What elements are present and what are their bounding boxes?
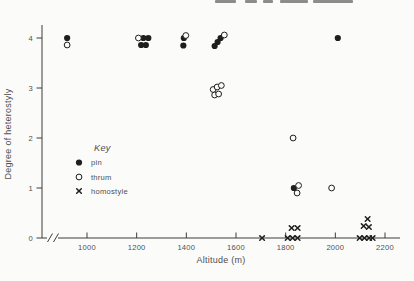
heterostyly-altitude-scatter-chart: 100012001400160018002000220001234Keypint… (0, 0, 414, 281)
series-thrum (64, 32, 334, 196)
x-tick-label: 1800 (277, 243, 295, 252)
y-tick-label: 2 (29, 134, 33, 143)
x-axis-label: Altitude (m) (196, 255, 245, 265)
legend-label-homostyle: homostyle (91, 187, 128, 196)
point-thrum (218, 83, 224, 89)
series-pin (64, 35, 341, 191)
point-thrum (64, 42, 70, 48)
point-pin (180, 42, 186, 48)
legend-marker-thrum (76, 174, 82, 180)
legend-marker-pin (76, 159, 82, 165)
point-thrum (329, 185, 335, 191)
point-pin (335, 35, 341, 41)
x-tick-label: 1400 (177, 243, 195, 252)
x-tick-label: 1600 (227, 243, 245, 252)
y-tick-label: 0 (29, 234, 33, 243)
point-pin (212, 43, 218, 49)
y-tick-label: 1 (29, 184, 33, 193)
point-thrum (183, 33, 189, 39)
y-tick-label: 3 (29, 84, 33, 93)
x-tick-label: 2000 (326, 243, 344, 252)
x-tick-label: 2200 (376, 243, 394, 252)
legend-title: Key (94, 143, 112, 153)
point-thrum (294, 190, 300, 196)
point-homostyle (367, 225, 372, 230)
y-axis-label: Degree of heterostyly (3, 88, 13, 179)
point-pin (143, 42, 149, 48)
point-homostyle (295, 226, 300, 231)
legend: Keypinthrumhomostyle (76, 143, 128, 196)
point-homostyle (289, 226, 294, 231)
x-axis-break-icon (48, 234, 59, 243)
x-tick-label: 1200 (128, 243, 146, 252)
point-thrum (216, 91, 222, 97)
point-thrum (221, 32, 227, 38)
point-thrum (296, 183, 302, 189)
point-homostyle (361, 224, 366, 229)
series-homostyle (260, 217, 375, 241)
point-thrum (136, 35, 142, 41)
point-homostyle (365, 217, 370, 222)
x-tick-label: 1000 (78, 243, 96, 252)
y-tick-label: 4 (29, 34, 33, 43)
legend-label-pin: pin (91, 158, 102, 167)
legend-label-thrum: thrum (91, 173, 112, 182)
point-pin (145, 35, 151, 41)
point-thrum (290, 135, 296, 141)
point-pin (64, 35, 70, 41)
scanned-figure-page: 100012001400160018002000220001234Keypint… (0, 0, 414, 281)
axes (42, 25, 400, 242)
legend-marker-homostyle (77, 189, 82, 194)
